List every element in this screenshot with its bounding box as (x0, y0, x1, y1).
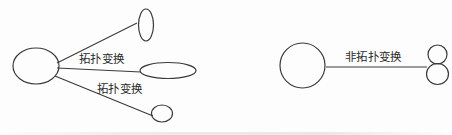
connector-line-to-horizontal-ellipse (57, 68, 141, 72)
scan-edge-artifact (0, 132, 452, 135)
right-group (280, 43, 449, 88)
figure-eight-upper-lobe (428, 45, 447, 64)
figure-eight-lower-lobe (427, 64, 449, 85)
connector-line-to-small-circle (55, 76, 153, 116)
label-non-topological-transformation: 非拓扑变换 (345, 52, 402, 64)
target-small-circle (152, 105, 173, 122)
label-topological-transformation-2: 拓扑变换 (97, 84, 142, 96)
target-vertical-ellipse (139, 9, 154, 41)
left-source-circle (13, 48, 59, 84)
left-group (13, 9, 196, 122)
target-horizontal-ellipse (140, 63, 196, 79)
topology-transformation-diagram: 拓扑变换 拓扑变换 非拓扑变换 (0, 0, 452, 135)
right-source-circle (280, 43, 325, 88)
diagram-canvas (0, 0, 452, 135)
label-topological-transformation-1: 拓扑变换 (79, 54, 124, 66)
